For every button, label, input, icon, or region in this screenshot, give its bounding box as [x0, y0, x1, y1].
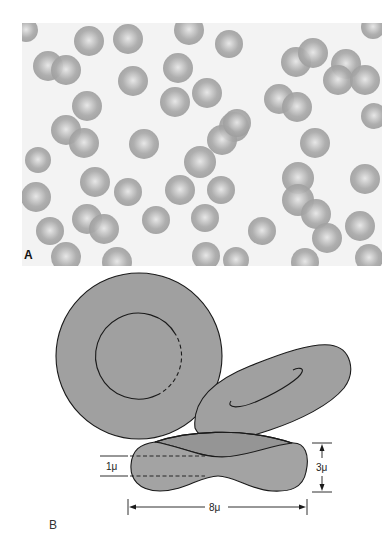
red-blood-cell — [323, 65, 353, 95]
panel-a-label: A — [24, 248, 33, 262]
red-blood-cell — [223, 247, 249, 273]
red-blood-cell — [102, 247, 132, 277]
erythrocyte-figure: A — [0, 0, 387, 535]
red-blood-cell — [21, 182, 51, 212]
red-blood-cell — [191, 204, 219, 232]
panel-b-label: B — [49, 518, 57, 532]
red-blood-cell — [142, 206, 170, 234]
rim-thickness-label: 3μ — [316, 462, 328, 473]
red-blood-cell — [207, 176, 235, 204]
panel-a-micrograph: A — [14, 15, 387, 277]
red-blood-cell — [350, 164, 380, 194]
red-blood-cell — [36, 217, 64, 245]
red-blood-cell — [350, 65, 380, 95]
diameter-label: 8μ — [209, 502, 221, 513]
panel-b-schematic — [56, 273, 351, 515]
red-blood-cell — [300, 128, 330, 158]
red-blood-cell — [248, 217, 276, 245]
red-blood-cell — [113, 24, 143, 54]
red-blood-cell — [355, 244, 383, 272]
red-blood-cell — [215, 30, 243, 58]
red-blood-cell — [223, 109, 251, 137]
red-blood-cell — [291, 248, 319, 276]
red-blood-cell — [14, 18, 38, 42]
red-blood-cell — [80, 167, 110, 197]
red-blood-cell — [89, 214, 119, 244]
red-blood-cell — [361, 103, 387, 129]
red-blood-cell — [282, 92, 312, 122]
red-blood-cell — [298, 38, 328, 68]
red-blood-cell — [69, 128, 99, 158]
red-blood-cell — [165, 175, 195, 205]
red-blood-cell — [51, 242, 81, 272]
red-blood-cell — [25, 147, 51, 173]
red-blood-cell — [160, 87, 190, 117]
red-blood-cell — [312, 223, 342, 253]
red-blood-cell — [163, 53, 193, 83]
red-blood-cell — [72, 91, 102, 121]
red-blood-cell — [192, 78, 222, 108]
red-blood-cell — [174, 15, 204, 45]
red-blood-cell — [192, 242, 220, 270]
red-blood-cell — [361, 15, 385, 39]
cross-section-cell — [131, 432, 307, 491]
center-thickness-label: 1μ — [106, 461, 118, 472]
red-blood-cell — [129, 129, 159, 159]
red-blood-cell — [114, 178, 142, 206]
red-blood-cell — [118, 66, 148, 96]
red-blood-cell — [51, 55, 81, 85]
red-blood-cell — [184, 146, 216, 178]
red-blood-cell — [345, 211, 375, 241]
red-blood-cell — [74, 26, 104, 56]
